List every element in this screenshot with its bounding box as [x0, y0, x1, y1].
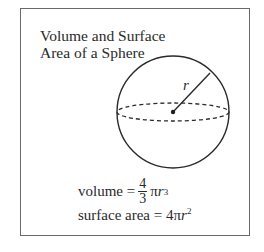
radius-line	[173, 73, 210, 112]
volume-label: volume =	[78, 183, 135, 200]
surface-area-formula: surface area = 4πr2	[78, 206, 191, 224]
volume-formula: volume = 4 3 πr3	[78, 177, 168, 206]
surface-exponent: 2	[187, 206, 192, 216]
volume-exponent: 3	[164, 187, 169, 197]
fraction: 4 3	[138, 177, 147, 206]
radius-label: r	[183, 77, 189, 93]
center-point	[171, 110, 175, 114]
fraction-denominator: 3	[139, 192, 146, 206]
surface-area-label: surface area = 4π	[78, 207, 181, 223]
pi-symbol: π	[150, 183, 158, 200]
fraction-numerator: 4	[138, 177, 147, 192]
